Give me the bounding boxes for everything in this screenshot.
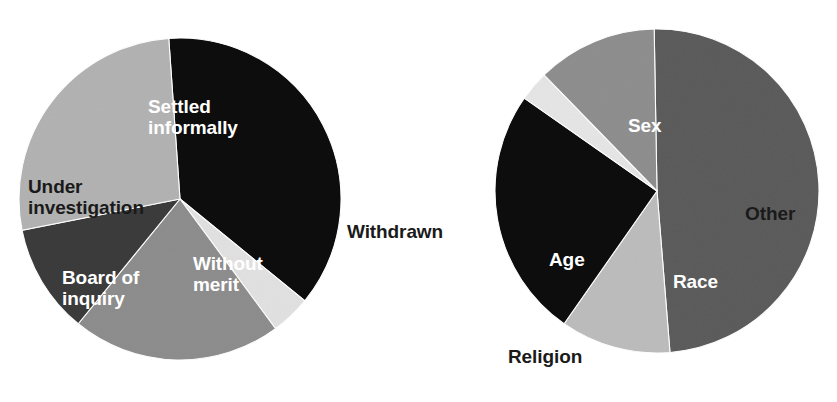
slice-label-under-investigation: Underinvestigation: [28, 176, 144, 219]
pie-slice-sex: [654, 29, 819, 352]
right-pie-slices: [495, 29, 819, 353]
slice-label-without-merit: Withoutmerit: [193, 253, 263, 296]
slice-label-other: Other: [745, 203, 795, 224]
complaint-outcomes-pie: Settledinformally Withdrawn Withoutmerit…: [0, 0, 837, 402]
slice-label-race: Race: [673, 271, 718, 292]
slice-label-settled-informally: Settledinformally: [148, 96, 238, 139]
pie-chart-figure: Settledinformally Withdrawn Withoutmerit…: [0, 0, 837, 402]
slice-label-board-of-inquiry: Board ofinquiry: [62, 267, 139, 310]
slice-label-sex: Sex: [628, 115, 662, 136]
slice-label-age: Age: [549, 249, 585, 270]
slice-label-religion: Religion: [508, 346, 582, 367]
slice-label-withdrawn: Withdrawn: [347, 221, 443, 242]
